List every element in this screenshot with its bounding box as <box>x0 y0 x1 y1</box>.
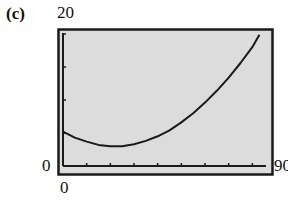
calculator-screen-plot <box>0 0 288 201</box>
screen-frame <box>59 30 273 175</box>
